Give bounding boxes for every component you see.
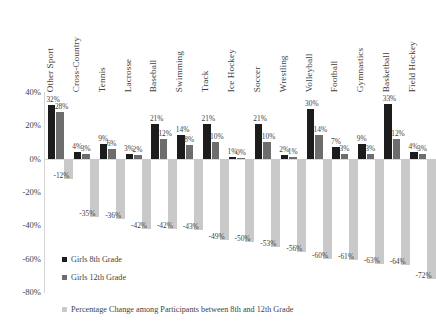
data-label: 12% bbox=[158, 130, 172, 137]
chart-caption: Percentage Change among Participants bet… bbox=[62, 305, 293, 314]
data-label: 3% bbox=[365, 145, 375, 152]
category-label: Volleyball bbox=[304, 53, 313, 92]
bar-girls-8th bbox=[229, 157, 237, 159]
data-label: -56% bbox=[286, 245, 302, 252]
legend-item: Girls 12th Grade bbox=[62, 273, 262, 282]
data-label: 3% bbox=[81, 145, 91, 152]
bar-girls-12th bbox=[82, 154, 90, 159]
bar-girls-12th bbox=[160, 139, 168, 159]
bar-girls-12th bbox=[419, 154, 427, 159]
data-label: 14% bbox=[176, 126, 190, 133]
category-label: Football bbox=[330, 61, 339, 92]
y-axis-tick: -80% bbox=[22, 287, 41, 297]
y-axis-tick: -20% bbox=[22, 187, 41, 197]
data-label: -35% bbox=[79, 210, 95, 217]
bar-girls-8th bbox=[255, 124, 263, 159]
data-label: 8% bbox=[184, 136, 194, 143]
bar-girls-12th bbox=[108, 149, 116, 159]
caption-label: Percentage Change among Participants bet… bbox=[71, 305, 293, 314]
data-label: 2% bbox=[133, 146, 143, 153]
category-label: Field Hockey bbox=[408, 41, 417, 92]
category-label: Basketball bbox=[382, 52, 391, 92]
category-label: Ice Hockey bbox=[227, 49, 236, 92]
y-axis-tick: -40% bbox=[22, 220, 41, 230]
data-label: 0% bbox=[236, 149, 246, 156]
y-axis-tick: 40% bbox=[25, 87, 41, 97]
category-axis-labels: Other SportCross-CountryTennisLacrosseBa… bbox=[0, 0, 434, 92]
data-label: 21% bbox=[202, 115, 216, 122]
bar-group: 9%3%-63% bbox=[355, 92, 381, 292]
data-label: -53% bbox=[260, 240, 276, 247]
bar-group: 2%1%-56% bbox=[278, 92, 304, 292]
data-label: 3% bbox=[417, 145, 427, 152]
data-label: -42% bbox=[131, 222, 147, 229]
bar-group: 33%12%-64% bbox=[381, 92, 407, 292]
y-axis-tick-labels: 40%20%0%-20%-40%-60%-80% bbox=[0, 92, 44, 292]
bar-group: 4%3%-72% bbox=[407, 92, 433, 292]
bar-girls-12th bbox=[315, 135, 323, 158]
data-label: 10% bbox=[262, 133, 276, 140]
data-label: 33% bbox=[383, 95, 397, 102]
data-label: -42% bbox=[157, 222, 173, 229]
bar-girls-12th bbox=[237, 158, 245, 159]
bar-girls-12th bbox=[263, 142, 271, 159]
bar-girls-8th bbox=[203, 124, 211, 159]
bar-girls-8th bbox=[74, 152, 82, 159]
category-label: Soccer bbox=[253, 66, 262, 92]
legend-swatch-icon bbox=[62, 257, 67, 262]
data-label: -61% bbox=[338, 253, 354, 260]
data-label: -64% bbox=[390, 258, 406, 265]
data-label: 12% bbox=[391, 130, 405, 137]
bar-girls-12th bbox=[56, 112, 64, 159]
category-label: Track bbox=[201, 70, 210, 92]
data-label: 9% bbox=[357, 135, 367, 142]
data-label: 28% bbox=[55, 103, 69, 110]
data-label: -43% bbox=[183, 223, 199, 230]
legend-swatch-icon bbox=[62, 275, 67, 280]
bar-girls-12th bbox=[212, 142, 220, 159]
category-label: Other Sport bbox=[46, 48, 55, 92]
data-label: 14% bbox=[314, 126, 328, 133]
bar-percentage-change bbox=[427, 159, 436, 279]
chart-legend: Girls 8th GradeGirls 12th Grade bbox=[62, 255, 262, 291]
data-label: -63% bbox=[364, 257, 380, 264]
data-label: -36% bbox=[105, 212, 121, 219]
data-label: 21% bbox=[150, 115, 164, 122]
data-label: 3% bbox=[339, 145, 349, 152]
category-label: Gymnastics bbox=[356, 48, 365, 92]
data-label: -49% bbox=[209, 233, 225, 240]
category-label: Baseball bbox=[149, 60, 158, 92]
data-label: 1% bbox=[288, 148, 298, 155]
category-label: Lacrosse bbox=[123, 59, 132, 92]
bar-girls-12th bbox=[289, 157, 297, 159]
data-label: -72% bbox=[416, 272, 432, 279]
category-label: Tennis bbox=[97, 67, 106, 92]
bar-girls-8th bbox=[410, 152, 418, 159]
data-label: -60% bbox=[312, 252, 328, 259]
data-label: 30% bbox=[305, 100, 319, 107]
caption-swatch-icon bbox=[62, 307, 67, 312]
bar-girls-8th bbox=[126, 154, 134, 159]
data-label: 6% bbox=[107, 140, 117, 147]
bar-girls-12th bbox=[367, 154, 375, 159]
y-axis-tick: 0% bbox=[30, 154, 41, 164]
y-axis-tick: 20% bbox=[25, 120, 41, 130]
data-label: -50% bbox=[234, 235, 250, 242]
legend-label: Girls 8th Grade bbox=[71, 255, 122, 264]
category-label: Cross-Country bbox=[72, 37, 81, 92]
data-label: -12% bbox=[53, 172, 69, 179]
legend-item: Girls 8th Grade bbox=[62, 255, 262, 264]
category-label: Swimming bbox=[175, 51, 184, 92]
bar-girls-12th bbox=[341, 154, 349, 159]
bar-group: 30%14%-60% bbox=[304, 92, 330, 292]
bar-girls-12th bbox=[393, 139, 401, 159]
y-axis-tick: -60% bbox=[22, 254, 41, 264]
data-label: 10% bbox=[210, 133, 224, 140]
category-label: Wrestling bbox=[279, 55, 288, 92]
bar-girls-12th bbox=[134, 155, 142, 158]
data-label: 21% bbox=[253, 115, 267, 122]
legend-label: Girls 12th Grade bbox=[71, 273, 126, 282]
bar-group: 7%3%-61% bbox=[330, 92, 356, 292]
bar-girls-8th bbox=[48, 105, 56, 158]
